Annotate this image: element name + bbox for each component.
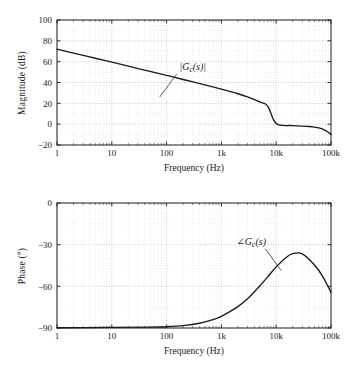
curve-annotation-label: ∠Gc(s) [236,236,266,249]
phase-plot-canvas: 1101001k10k100k−90−60−300∠Gc(s) [0,183,357,366]
curve-annotation-leader-line [160,74,177,97]
curve-annotation-label: |Gc(s)| [179,61,206,74]
x-tick-label: 100 [160,331,174,341]
x-tick-label: 1 [55,148,60,158]
x-tick-label: 1k [217,148,227,158]
y-tick-label: 60 [43,57,53,67]
y-tick-label: 100 [39,15,53,25]
magnitude-plot-panel: Magnitude (dB) Frequency (Hz) 1101001k10… [0,0,357,183]
curve-annotation-leader-line [265,249,281,271]
y-tick-label: 40 [43,78,53,88]
y-tick-label: −20 [38,140,53,150]
x-tick-label: 100k [322,331,341,341]
x-tick-label: 10k [269,148,283,158]
magnitude-plot-canvas: 1101001k10k100k−20020406080100|Gc(s)| [0,0,357,183]
data-curve [57,253,331,328]
y-tick-label: 0 [48,119,53,129]
y-tick-label: −30 [38,240,53,250]
x-tick-label: 10k [269,331,283,341]
x-tick-label: 1 [55,331,60,341]
x-tick-label: 100 [160,148,174,158]
x-tick-label: 10 [107,331,117,341]
y-tick-label: 20 [43,99,53,109]
y-tick-label: −60 [38,282,53,292]
y-tick-label: 80 [43,36,53,46]
x-tick-label: 1k [217,331,227,341]
x-tick-label: 100k [322,148,341,158]
y-tick-label: −90 [38,323,53,333]
y-tick-label: 0 [48,198,53,208]
phase-plot-panel: Phase (°) Frequency (Hz) 1101001k10k100k… [0,183,357,366]
x-tick-label: 10 [107,148,117,158]
